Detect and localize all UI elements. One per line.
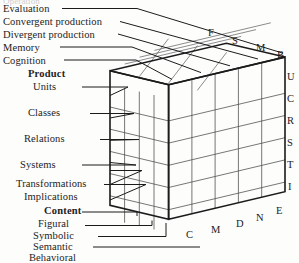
operation-label-cognition: Cognition (3, 55, 46, 66)
product-label-implications: Implications (24, 191, 78, 202)
cube-top-letter-s: S (232, 35, 238, 46)
cube-right-letter-s: S (287, 137, 293, 148)
cube-bottom-letter-d: D (236, 218, 244, 229)
product-leader-lines (82, 87, 146, 200)
content-label-symbolic: Symbolic (33, 230, 74, 241)
cube-right-letter-c: C (287, 93, 294, 104)
content-dimension-header: Content (44, 205, 82, 216)
cube-right-letter-u: U (287, 71, 295, 82)
product-label-units: Units (33, 81, 56, 92)
right-face-outline (169, 57, 285, 219)
cube-top-letter-m: M (256, 42, 265, 53)
cube-top-letter-b: B (277, 49, 284, 60)
content-leader-lines (82, 212, 200, 247)
cube-bottom-letter-c: C (186, 229, 193, 240)
content-label-figural: Figural (38, 218, 69, 229)
product-label-relations: Relations (24, 133, 65, 144)
operation-label-divergent-production: Divergent production (3, 29, 95, 40)
operation-label-convergent-production: Convergent production (3, 16, 102, 27)
right-face-grid (169, 63, 285, 214)
product-label-systems: Systems (20, 159, 56, 170)
content-label-semantic: Semantic (33, 241, 73, 252)
product-label-transformations: Transformations (16, 178, 87, 189)
cube-bottom-letter-n: N (256, 212, 264, 223)
product-dimension-header: Product (28, 68, 65, 79)
product-label-classes: Classes (28, 107, 60, 118)
cube-bottom-letter-m: M (211, 224, 220, 235)
cube-bottom-letter-e: E (276, 205, 282, 216)
operation-label-evaluation: Evaluation (3, 3, 50, 14)
content-label-behavioral: Behavioral (29, 252, 76, 263)
cube-right-letter-i: I (288, 181, 292, 192)
operation-label-memory: Memory (3, 42, 40, 53)
cube-right-letter-r: R (287, 115, 294, 126)
cube-right-letter-t: T (287, 159, 293, 170)
cube-top-letter-f: F (208, 27, 214, 38)
